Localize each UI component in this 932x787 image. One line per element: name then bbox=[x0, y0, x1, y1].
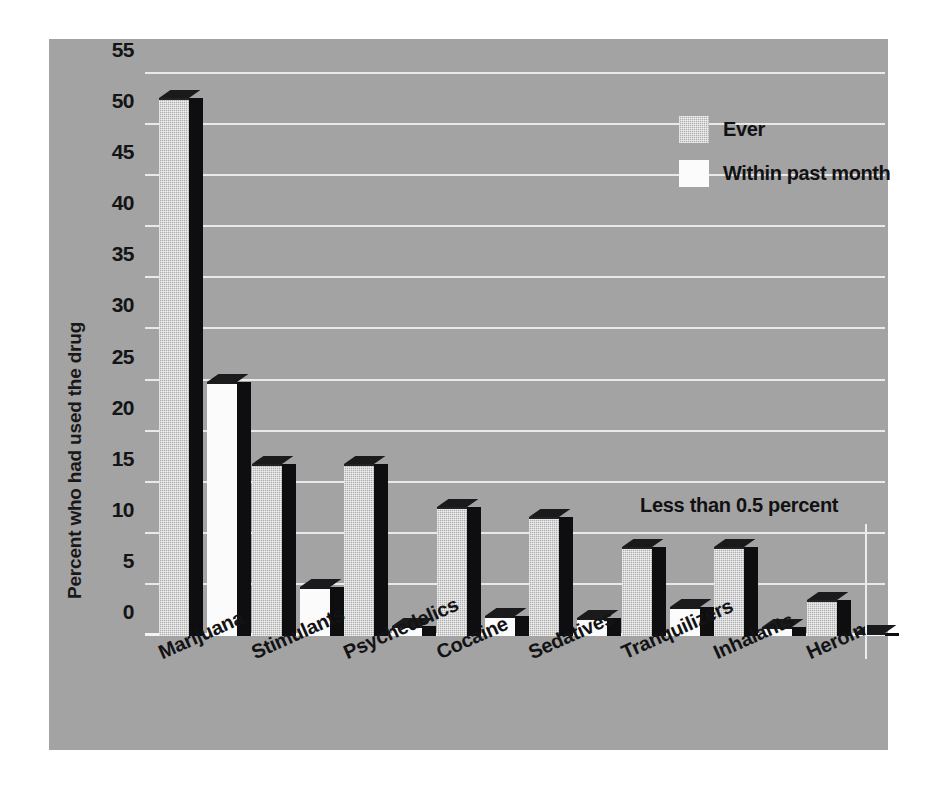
annotation-less-than-half-percent: Less than 0.5 percent bbox=[640, 494, 838, 517]
bar-top-face bbox=[159, 90, 200, 98]
y-tick-10: 10 bbox=[112, 498, 134, 522]
bar-tranquilizers-ever[interactable] bbox=[622, 547, 652, 636]
bar-group bbox=[529, 74, 622, 636]
bar-front bbox=[207, 382, 237, 636]
bar-group bbox=[159, 74, 252, 636]
y-axis-title: Percent who had used the drug bbox=[62, 179, 88, 599]
chart-panel: Percent who had used the drug 0510152025… bbox=[49, 39, 888, 750]
y-tick-35: 35 bbox=[112, 242, 134, 266]
bar-side-face bbox=[282, 464, 296, 636]
bar-side-face bbox=[559, 517, 573, 636]
y-tick-20: 20 bbox=[112, 396, 134, 420]
bar-top-face bbox=[714, 539, 755, 547]
bar-side-face bbox=[237, 382, 251, 636]
bar-front bbox=[252, 464, 282, 636]
bar-front bbox=[529, 517, 559, 636]
bar-front bbox=[622, 547, 652, 636]
y-tick-45: 45 bbox=[112, 140, 134, 164]
bar-side-face bbox=[189, 98, 203, 636]
bar-top-face bbox=[622, 539, 663, 547]
bar-top-face bbox=[300, 579, 341, 587]
y-tick-15: 15 bbox=[112, 447, 134, 471]
legend-swatch-ever-icon bbox=[679, 116, 709, 143]
legend-item-within-past-month[interactable]: Within past month bbox=[679, 151, 890, 195]
bar-group bbox=[252, 74, 345, 636]
bar-marijuana-within-past-month[interactable] bbox=[207, 382, 237, 636]
bar-top-face bbox=[529, 509, 570, 517]
bar-top-face bbox=[437, 499, 478, 507]
legend-item-ever[interactable]: Ever bbox=[679, 107, 890, 151]
bar-side-face bbox=[885, 633, 899, 636]
legend-label-within-past-month: Within past month bbox=[723, 162, 890, 185]
bar-front bbox=[159, 98, 189, 636]
bar-group bbox=[344, 74, 437, 636]
y-tick-40: 40 bbox=[112, 191, 134, 215]
bar-marijuana-ever[interactable] bbox=[159, 98, 189, 636]
y-tick-55: 55 bbox=[112, 38, 134, 62]
y-tick-25: 25 bbox=[112, 345, 134, 369]
bar-stimulants-ever[interactable] bbox=[252, 464, 282, 636]
bar-top-face bbox=[207, 374, 248, 382]
bar-front bbox=[344, 464, 374, 636]
y-tick-5: 5 bbox=[123, 549, 134, 573]
y-tick-30: 30 bbox=[112, 293, 134, 317]
bar-top-face bbox=[807, 592, 848, 600]
bar-sedatives-ever[interactable] bbox=[529, 517, 559, 636]
y-tick-50: 50 bbox=[112, 89, 134, 113]
legend-label-ever: Ever bbox=[723, 118, 765, 141]
legend: Ever Within past month bbox=[679, 107, 890, 195]
bar-side-face bbox=[515, 616, 529, 636]
bar-top-face bbox=[252, 456, 293, 464]
bar-group bbox=[437, 74, 530, 636]
bar-top-face bbox=[485, 608, 526, 616]
bar-psychedelics-ever[interactable] bbox=[344, 464, 374, 636]
bar-side-face bbox=[374, 464, 388, 636]
bar-top-face bbox=[344, 456, 385, 464]
bar-side-face bbox=[467, 507, 481, 636]
y-tick-0: 0 bbox=[123, 600, 134, 624]
legend-swatch-month-icon bbox=[679, 160, 709, 187]
